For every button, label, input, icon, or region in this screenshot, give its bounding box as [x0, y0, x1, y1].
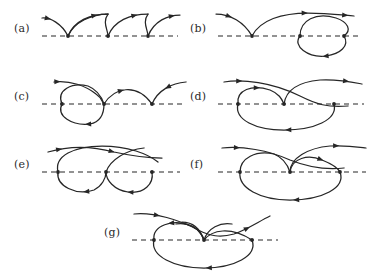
panel-d-graphic — [216, 74, 368, 140]
vertex-g-2 — [250, 238, 254, 242]
curve-b-3 — [298, 36, 346, 56]
curve-c-2 — [61, 104, 104, 124]
curve-e-3 — [106, 172, 152, 192]
curve-f-3 — [240, 172, 341, 200]
panel-b-graphic — [216, 6, 368, 72]
panel-f-graphic — [216, 142, 368, 208]
panel-label-g: (g) — [104, 226, 120, 239]
curve-a-3 — [105, 14, 108, 36]
curve-a-0 — [42, 18, 68, 36]
panel-g — [130, 210, 290, 276]
vertex-e-0 — [56, 170, 60, 174]
curve-d-1 — [284, 80, 362, 104]
curve-a-4 — [108, 14, 148, 36]
arrowhead-d-2-0 — [254, 85, 260, 90]
vertex-a-0 — [66, 34, 70, 38]
vertex-f-0 — [238, 170, 242, 174]
vertex-d-2 — [332, 102, 336, 106]
panel-d — [216, 74, 368, 140]
panel-g-graphic — [130, 210, 290, 276]
panel-e-graphic — [40, 142, 200, 208]
panel-label-c: (c) — [14, 90, 29, 103]
panel-a — [40, 6, 200, 72]
curve-f-4 — [240, 153, 290, 172]
vertex-g-1 — [202, 238, 206, 242]
curve-a-5 — [145, 14, 148, 36]
arrowhead-c-3-0 — [117, 89, 124, 94]
vertex-d-0 — [236, 102, 240, 106]
vertex-b-1 — [298, 34, 302, 38]
curve-g-4 — [154, 223, 204, 240]
curve-a-2 — [68, 14, 108, 36]
vertex-f-1 — [288, 170, 292, 174]
vertex-b-2 — [342, 34, 346, 38]
vertex-e-1 — [104, 170, 108, 174]
vertex-e-2 — [150, 170, 154, 174]
curve-f-2 — [290, 157, 340, 172]
arrowhead-g-5-0 — [206, 265, 212, 270]
panel-f — [216, 142, 368, 208]
vertex-d-1 — [282, 102, 286, 106]
curve-e-2 — [58, 172, 106, 192]
panel-label-f: (f) — [190, 158, 203, 171]
arrowhead-f-2-0 — [317, 156, 324, 161]
vertex-a-2 — [146, 34, 150, 38]
arrowhead-d-0-0 — [236, 78, 242, 83]
curve-g-5 — [154, 240, 253, 268]
panel-a-graphic — [40, 6, 200, 72]
arrowhead-d-3-0 — [285, 127, 291, 132]
arrowhead-d-1-0 — [343, 78, 349, 83]
arrowhead-e-0-0 — [56, 147, 63, 152]
arrowhead-e-3-0 — [127, 190, 133, 195]
panel-e — [40, 142, 200, 208]
vertex-b-0 — [250, 34, 254, 38]
arrowhead-c-0-0 — [54, 79, 60, 84]
arrowhead-c-4-0 — [165, 83, 172, 88]
vertex-f-2 — [338, 170, 342, 174]
arrowhead-f-3-0 — [293, 197, 299, 202]
curve-a-6 — [148, 15, 180, 36]
arrowhead-g-0-0 — [153, 212, 160, 217]
vertex-c-0 — [60, 102, 64, 106]
panel-b — [216, 6, 368, 72]
vertex-a-1 — [106, 34, 110, 38]
vertex-c-1 — [102, 102, 106, 106]
diagram-figure: (a)(b)(c)(d)(e)(f)(g) — [0, 0, 368, 276]
arrowhead-a-0-0 — [44, 15, 51, 20]
curve-f-0 — [222, 148, 344, 169]
arrowhead-f-0-0 — [234, 145, 240, 150]
panel-c — [40, 74, 200, 140]
curve-d-3 — [238, 104, 335, 130]
curve-d-2 — [238, 88, 284, 104]
panel-label-b: (b) — [190, 22, 206, 35]
panel-label-e: (e) — [14, 158, 30, 171]
curve-d-0 — [224, 81, 348, 107]
arrowhead-c-2-0 — [85, 121, 91, 126]
panel-label-a: (a) — [14, 22, 30, 35]
curve-b-2 — [300, 16, 348, 36]
arrowhead-b-0-0 — [225, 13, 232, 18]
vertex-g-0 — [152, 238, 156, 242]
arrowhead-g-4-0 — [168, 220, 174, 225]
arrowhead-f-1-0 — [333, 143, 339, 148]
vertex-c-2 — [150, 102, 154, 106]
panel-label-d: (d) — [190, 90, 206, 103]
curve-c-3 — [104, 90, 152, 104]
curve-b-0 — [216, 14, 252, 36]
curve-e-0 — [48, 148, 162, 159]
arrowhead-b-1-0 — [302, 11, 308, 16]
arrowhead-g-0-1 — [243, 227, 250, 232]
panel-c-graphic — [40, 74, 200, 140]
